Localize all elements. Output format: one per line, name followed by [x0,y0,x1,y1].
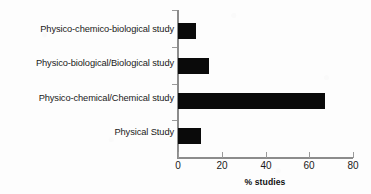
y-axis-tick [172,47,177,48]
x-axis-tick-80 [353,152,354,158]
category-label-2: Physico-chemical/Chemical study [0,93,174,104]
category-label-3: Physical Study [0,127,174,138]
x-axis-tick-label-40: 40 [251,160,281,171]
bar-physico-biological-biological-study [178,58,209,74]
bar-physico-chemico-biological-study [178,23,196,39]
bar-physical-study [178,128,201,144]
category-label-1: Physico-biological/Biological study [0,58,174,69]
y-axis-tick [172,84,177,85]
category-label-0: Physico-chemico-biological study [0,24,174,35]
x-axis-tick-40 [266,152,267,158]
x-axis-tick-0 [178,152,179,158]
x-axis-tick-20 [222,152,223,158]
x-axis-tick-label-0: 0 [163,160,193,171]
y-axis-tick [172,10,177,11]
x-axis-tick-60 [309,152,310,158]
y-axis-tick [172,120,177,121]
x-axis-tick-label-60: 60 [294,160,324,171]
horizontal-bar-chart: Physico-chemico-biological study Physico… [0,0,371,194]
x-axis-tick-label-80: 80 [338,160,368,171]
bar-physico-chemical-chemical-study [178,93,325,109]
x-axis-tick-label-20: 20 [207,160,237,171]
x-axis-title: % studies [177,177,353,187]
